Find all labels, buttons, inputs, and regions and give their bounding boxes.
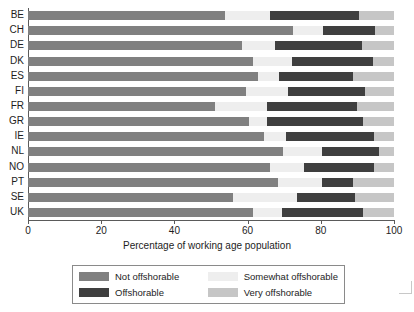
bar-row: ES [28, 72, 394, 81]
bar-row: FR [28, 102, 394, 111]
page-corner-mark [399, 281, 412, 294]
legend-label: Not offshorable [115, 272, 179, 282]
bar-segment [275, 41, 362, 50]
bar-segment [270, 163, 305, 172]
bar-segment [322, 147, 379, 156]
bar-segment [359, 11, 394, 20]
bar-segment [355, 193, 394, 202]
y-axis-label: IE [15, 131, 24, 141]
bar-row: PT [28, 178, 394, 187]
bar-segment [249, 117, 266, 126]
y-axis-label: FI [15, 86, 24, 96]
legend-swatch [79, 272, 109, 281]
x-tick [394, 220, 395, 224]
legend-swatch [79, 288, 109, 297]
legend-label: Offshorable [115, 288, 164, 298]
bar-segment [28, 147, 283, 156]
bar-row: NL [28, 147, 394, 156]
bar-segment [357, 102, 394, 111]
bar-segment [28, 178, 278, 187]
bar-segment [28, 26, 293, 35]
stacked-bar [28, 11, 394, 20]
bar-row: DE [28, 41, 394, 50]
bar-segment [28, 72, 258, 81]
bar-segment [292, 57, 373, 66]
y-axis-label: FR [11, 101, 24, 111]
bar-segment [28, 11, 225, 20]
x-tick-label: 40 [169, 226, 180, 236]
stacked-bar [28, 132, 394, 141]
bar-segment [374, 132, 394, 141]
y-axis-label: DK [10, 56, 24, 66]
bar-segment [270, 11, 359, 20]
bar-segment [28, 57, 253, 66]
bar-segment [267, 102, 357, 111]
bar-row: DK [28, 57, 394, 66]
stacked-bar [28, 41, 394, 50]
bar-row: IE [28, 132, 394, 141]
x-tick-label: 60 [242, 226, 253, 236]
y-axis-label: PT [11, 177, 24, 187]
x-axis-title: Percentage of working age population [0, 240, 414, 251]
bar-segment [288, 87, 365, 96]
bar-row: NO [28, 163, 394, 172]
bar-segment [246, 87, 288, 96]
bar-segment [28, 117, 249, 126]
bar-segment [363, 208, 394, 217]
stacked-bar [28, 57, 394, 66]
y-axis-label: ES [11, 71, 24, 81]
bar-segment [323, 26, 375, 35]
bar-segment [293, 26, 323, 35]
bar-row: BE [28, 11, 394, 20]
bar-segment [322, 178, 353, 187]
bar-segment [267, 117, 364, 126]
bar-segment [374, 163, 394, 172]
bar-segment [215, 102, 267, 111]
stacked-bar [28, 72, 394, 81]
bar-segment [373, 57, 394, 66]
bar-segment [278, 178, 321, 187]
bar-segment [283, 147, 321, 156]
x-tick-label: 20 [96, 226, 107, 236]
stacked-bar [28, 26, 394, 35]
y-axis-label: NO [9, 162, 24, 172]
x-axis-line [28, 220, 395, 221]
bar-segment [28, 41, 242, 50]
legend: Not offshorableSomewhat offshorableOffsh… [72, 265, 345, 304]
bar-segment [379, 147, 394, 156]
bar-row: UK [28, 208, 394, 217]
y-axis-label: DE [10, 40, 24, 50]
plot-area: BECHDEDKESFIFRGRIENLNOPTSEUK [28, 8, 394, 220]
bar-segment [28, 193, 233, 202]
x-tick-label: 100 [386, 226, 403, 236]
y-axis-label: SE [11, 192, 24, 202]
stacked-bar [28, 178, 394, 187]
legend-item: Somewhat offshorable [208, 272, 338, 282]
y-axis-label: BE [11, 10, 24, 20]
bar-segment [253, 57, 293, 66]
bar-segment [28, 132, 264, 141]
bar-segment [233, 193, 297, 202]
bar-segment [264, 132, 286, 141]
bar-segment [28, 163, 270, 172]
bar-segment [363, 117, 394, 126]
bar-row: FI [28, 87, 394, 96]
bar-segment [375, 26, 394, 35]
stacked-bar [28, 102, 394, 111]
bar-segment [225, 11, 270, 20]
stacked-bar-chart: BECHDEDKESFIFRGRIENLNOPTSEUK 02040608010… [0, 0, 414, 312]
bar-segment [28, 87, 246, 96]
bar-segment [297, 193, 355, 202]
x-tick [101, 220, 102, 224]
y-axis-label: NL [11, 146, 24, 156]
stacked-bar [28, 193, 394, 202]
bar-segment [258, 72, 279, 81]
legend-swatch [208, 272, 238, 281]
legend-label: Somewhat offshorable [244, 272, 338, 282]
stacked-bar [28, 87, 394, 96]
legend-item: Not offshorable [79, 272, 208, 282]
legend-swatch [208, 288, 238, 297]
bar-segment [365, 87, 394, 96]
legend-label: Very offshorable [244, 288, 312, 298]
bar-segment [28, 208, 253, 217]
